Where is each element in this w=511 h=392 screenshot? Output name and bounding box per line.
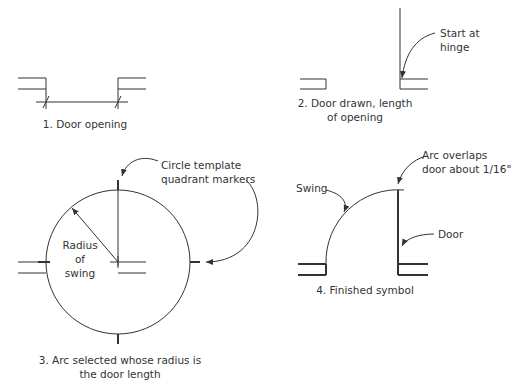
label-radius-line2: of xyxy=(60,252,100,266)
panel-3-arc-selected xyxy=(18,158,258,344)
caption-arc-selected-line2: the door length xyxy=(30,367,210,381)
callout-circle-template-line1: Circle template xyxy=(161,158,241,172)
caption-door-opening: 1. Door opening xyxy=(40,117,130,131)
panel-1-door-opening xyxy=(18,78,146,109)
label-radius-line1: Radius xyxy=(60,238,100,252)
label-swing: Swing xyxy=(296,181,328,195)
caption-door-drawn-line1: 2. Door drawn, length xyxy=(290,96,420,110)
callout-circle-template-line2: quadrant markers xyxy=(161,172,255,186)
callout-start-at-hinge-line1: Start at xyxy=(440,26,480,40)
label-door: Door xyxy=(438,227,463,241)
callout-start-at-hinge-line2: hinge xyxy=(440,40,469,54)
panel-2-door-drawn xyxy=(300,8,435,89)
caption-door-drawn-line2: of opening xyxy=(290,110,420,124)
callout-arc-overlaps-line2: door about 1/16" xyxy=(422,162,511,176)
panel-4-finished-symbol xyxy=(298,156,434,275)
caption-finished-symbol: 4. Finished symbol xyxy=(310,283,420,297)
caption-arc-selected-line1: 3. Arc selected whose radius is xyxy=(30,353,210,367)
callout-arc-overlaps-line1: Arc overlaps xyxy=(422,148,487,162)
label-radius-line3: swing xyxy=(60,266,100,280)
